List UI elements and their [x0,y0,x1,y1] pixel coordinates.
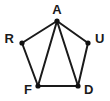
vertex-label-a: A [52,2,62,17]
vertex-label-u: U [95,31,104,46]
graph-vertex-d [75,83,80,88]
graph-edge-a-d [57,21,78,86]
graph-vertex-r [19,40,24,45]
vertex-label-d: D [84,82,93,97]
graph-edge-r-f [22,43,38,86]
graph-vertex-a [54,18,59,23]
graph-canvas: ARUFD [0,0,110,101]
edge-layer [22,21,88,86]
graph-vertex-f [35,83,40,88]
graph-diagram: ARUFD [0,0,110,101]
label-layer: ARUFD [5,2,105,97]
graph-vertex-u [85,40,90,45]
graph-edge-u-a [57,21,88,43]
vertex-label-r: R [5,31,15,46]
graph-edge-d-u [78,43,88,86]
vertex-label-f: F [24,82,32,97]
